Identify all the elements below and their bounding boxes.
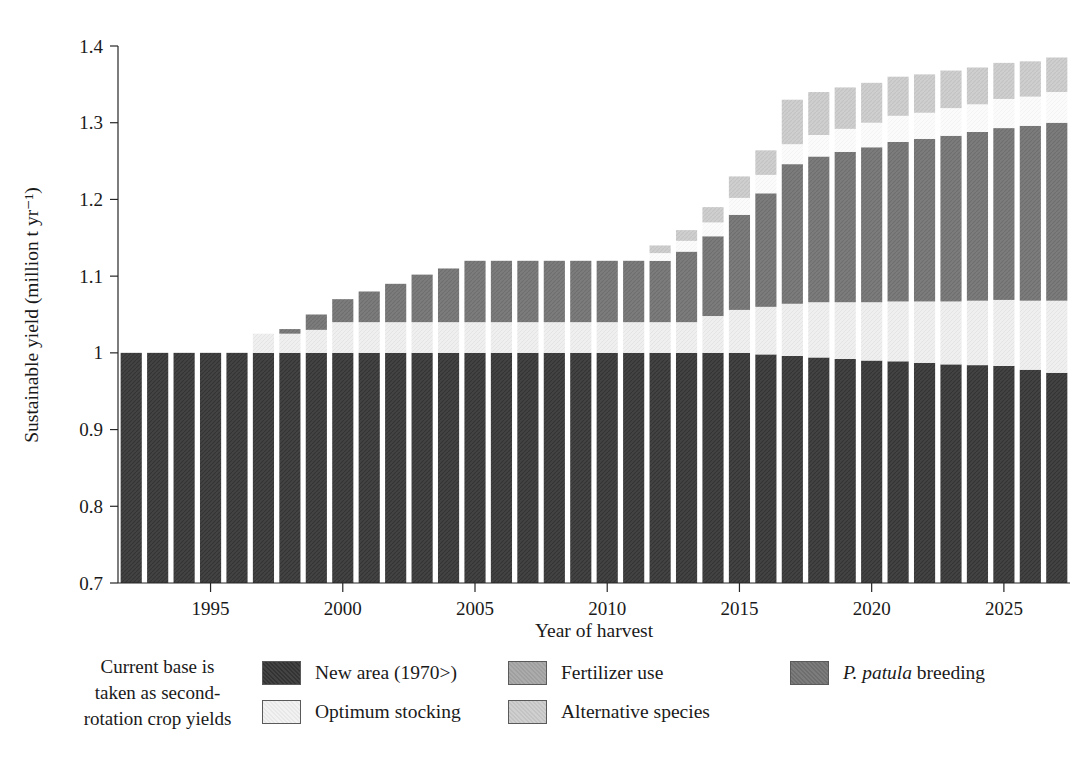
bar-segment [597,322,618,353]
bar-segment [359,353,380,583]
bar-segment [650,245,671,253]
bar-2023 [940,71,961,583]
bar-segment [1046,373,1067,583]
bar-segment [702,316,723,353]
chart-figure: 0.70.80.911.11.21.31.4 19952000200520102… [0,0,1086,763]
bar-segment [702,353,723,583]
bar-segment [914,301,935,362]
bar-2011 [623,261,644,583]
bar-segment [359,322,380,353]
bar-segment [914,74,935,112]
bar-segment [914,113,935,139]
x-tick-label: 2020 [853,598,891,619]
bar-segment [147,353,168,583]
bar-segment [385,353,406,583]
bar-segment [888,116,909,142]
bar-segment [464,353,485,583]
bar-segment [993,300,1014,366]
bar-segment [412,322,433,353]
y-axis-title: Sustainable yield (million t yr⁻¹) [21,187,43,443]
chart-legend: Current base is taken as second- rotatio… [0,648,1086,758]
legend-entry-fertilizer-use[interactable]: Fertilizer use [508,656,710,690]
bar-segment [940,136,961,302]
bar-segment [1046,58,1067,93]
bar-segment [279,334,300,353]
bar-segment [491,261,512,322]
bar-2027 [1046,58,1067,583]
bar-segment [967,67,988,104]
bar-segment [650,353,671,583]
bar-2014 [702,207,723,583]
bar-2016 [755,150,776,583]
bar-segment [385,284,406,322]
bar-segment [200,353,221,583]
bar-segment [729,198,750,215]
bar-2025 [993,63,1014,583]
x-tick-label: 2025 [985,598,1023,619]
bar-segment [464,261,485,322]
bar-1994 [174,353,195,583]
bar-segment [253,334,274,353]
bar-segment [359,291,380,322]
bar-segment [940,108,961,136]
bar-segment [729,176,750,197]
y-tick-label: 1.3 [79,112,103,133]
bar-segment [121,353,142,583]
bar-2009 [570,261,591,583]
bar-segment [226,353,247,583]
bar-segment [702,236,723,316]
bar-segment [782,356,803,583]
bar-segment [676,241,697,252]
bar-segment [1020,97,1041,126]
bar-segment [517,353,538,583]
bar-2013 [676,230,697,583]
bar-segment [782,164,803,304]
bar-segment [861,302,882,360]
bar-segment [174,353,195,583]
bar-segment [570,322,591,353]
bar-segment [650,261,671,322]
bar-segment [650,322,671,353]
legend-entry-new-area[interactable]: New area (1970>) [262,656,461,690]
bar-segment [729,215,750,310]
bar-segment [940,71,961,109]
y-axis-ticks: 0.70.80.911.11.21.31.4 [79,36,118,594]
legend-note-line-3: rotation crop yields [60,706,255,732]
bar-2006 [491,261,512,583]
bar-segment [782,144,803,164]
legend-column-1: New area (1970>) Optimum stocking [262,656,461,734]
bar-segment [544,261,565,322]
bar-segment [306,330,327,353]
bar-2019 [835,87,856,583]
bar-segment [650,253,671,261]
bar-segment [1020,301,1041,370]
legend-swatch-alternative-species [508,700,547,724]
bar-1997 [253,334,274,583]
y-tick-label: 1.1 [79,266,103,287]
bar-2001 [359,291,380,583]
bar-segment [808,92,829,135]
bar-2012 [650,245,671,583]
bar-segment [861,147,882,302]
bar-segment [1020,370,1041,583]
legend-label-optimum-stocking: Optimum stocking [315,701,461,723]
bar-segment [438,268,459,322]
x-axis-title: Year of harvest [535,620,654,641]
bar-segment [491,353,512,583]
bar-2000 [332,299,353,583]
bar-segment [1020,126,1041,301]
bar-segment [940,301,961,364]
legend-entry-alternative-species[interactable]: Alternative species [508,695,710,729]
bar-1996 [226,353,247,583]
y-tick-label: 1 [94,342,104,363]
bar-segment [332,353,353,583]
legend-column-3: P. patula breeding [790,656,985,695]
bar-segment [755,175,776,193]
bar-segment [967,104,988,132]
bar-segment [888,361,909,583]
bar-segment [993,128,1014,300]
bar-segment [782,304,803,356]
legend-entry-p-patula-breeding[interactable]: P. patula breeding [790,656,985,690]
legend-entry-optimum-stocking[interactable]: Optimum stocking [262,695,461,729]
bar-segment [623,322,644,353]
